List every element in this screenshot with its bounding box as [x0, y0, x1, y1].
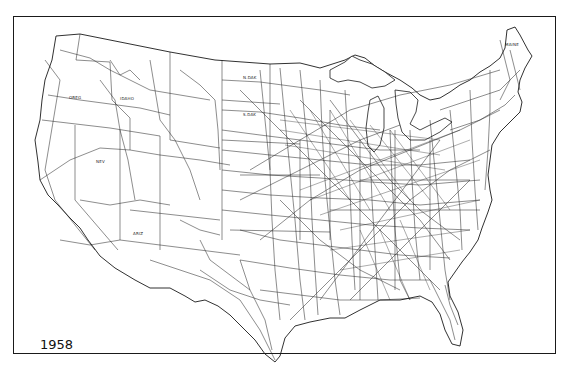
label-south-dakota: S.DAK — [243, 112, 256, 117]
label-nevada: NEV — [96, 159, 105, 164]
label-arizona: ARIZ — [133, 231, 143, 236]
label-north-dakota: N.DAK — [243, 75, 257, 80]
lake-superior — [330, 56, 395, 88]
state-borders — [42, 34, 480, 300]
lake-huron-erie — [395, 90, 452, 140]
railroad-map: OREG IDAHO N.DAK S.DAK NEV ARIZ MAINE — [0, 0, 568, 370]
year-label: 1958 — [40, 337, 73, 352]
label-idaho: IDAHO — [120, 96, 134, 101]
us-outline — [35, 27, 532, 362]
railroad-lines — [40, 40, 520, 360]
label-oregon: OREG — [69, 95, 81, 100]
label-maine: MAINE — [505, 42, 519, 47]
